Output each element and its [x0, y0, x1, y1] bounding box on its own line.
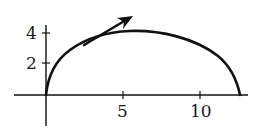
x-tick-label-5: 5: [117, 101, 128, 121]
y-tick-label-4: 4: [26, 23, 37, 43]
trajectory-chart: 4 2 5 10: [0, 0, 255, 134]
trajectory-curve: [46, 31, 240, 95]
y-tick-label-2: 2: [26, 53, 37, 73]
x-tick-label-10: 10: [190, 101, 212, 121]
